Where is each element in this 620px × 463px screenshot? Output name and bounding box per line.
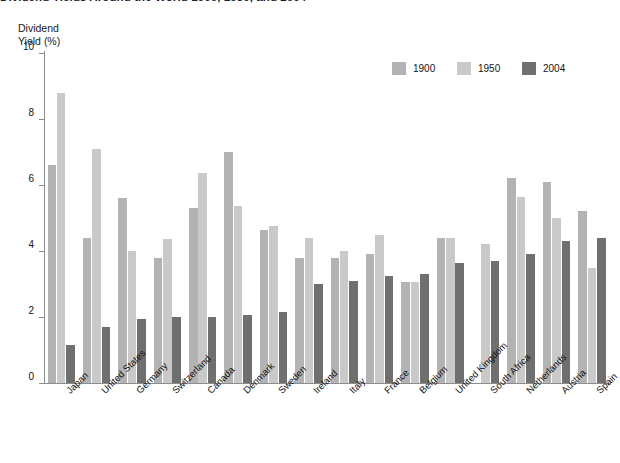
- bar: [491, 261, 500, 383]
- y-axis-tick-label: 4: [8, 239, 34, 250]
- chart-figure: Dividend Yields Around the World 1900, 1…: [0, 0, 620, 463]
- bar-group: [507, 53, 536, 383]
- legend-swatch: [522, 62, 536, 75]
- legend-label: 2004: [543, 63, 565, 74]
- bar: [578, 211, 587, 383]
- bar: [385, 276, 394, 383]
- y-axis-tick-label: 8: [8, 107, 34, 118]
- bar: [243, 315, 252, 383]
- bar: [455, 263, 464, 383]
- bar-group: [366, 53, 395, 383]
- bar: [349, 281, 358, 383]
- bar: [543, 182, 552, 383]
- bar: [507, 178, 516, 383]
- bar: [279, 312, 288, 383]
- legend-swatch: [392, 62, 406, 75]
- y-axis-tick-label: 2: [8, 305, 34, 316]
- y-axis-tick-label: 10: [8, 41, 34, 52]
- x-axis-labels: JapanUnited StatesGermanySwitzerlandCana…: [44, 384, 610, 463]
- bar-group: [331, 53, 360, 383]
- bar: [597, 238, 606, 383]
- y-axis-tick-label: 0: [8, 371, 34, 382]
- bar: [340, 251, 349, 383]
- bar-group: [295, 53, 324, 383]
- legend-label: 1950: [478, 63, 500, 74]
- bar-group: [578, 53, 607, 383]
- bar: [118, 198, 127, 383]
- y-axis-title-line1: Dividend: [18, 22, 60, 35]
- bar: [331, 258, 340, 383]
- bar: [446, 238, 455, 383]
- bar: [198, 173, 207, 383]
- bar: [92, 149, 101, 383]
- legend-item[interactable]: 2004: [522, 61, 565, 76]
- bar: [366, 254, 375, 383]
- bar: [437, 238, 446, 383]
- bar: [224, 152, 233, 383]
- bar: [48, 165, 57, 383]
- bar: [269, 226, 278, 383]
- bar-group: [83, 53, 112, 383]
- plot-area: [44, 53, 610, 383]
- legend-label: 1900: [413, 63, 435, 74]
- bar-group: [260, 53, 289, 383]
- bar: [234, 206, 243, 383]
- bar-group: [437, 53, 466, 383]
- bar: [172, 317, 181, 383]
- bar: [163, 239, 172, 383]
- bar: [83, 238, 92, 383]
- bar-group: [189, 53, 218, 383]
- legend-item[interactable]: 1950: [457, 61, 500, 76]
- legend-item[interactable]: 1900: [392, 61, 435, 76]
- bar: [420, 274, 429, 383]
- legend-swatch: [457, 62, 471, 75]
- figure-title: Dividend Yields Around the World 1900, 1…: [0, 0, 620, 5]
- bar: [208, 317, 217, 383]
- bar: [57, 93, 66, 383]
- bar-group: [401, 53, 430, 383]
- bar: [305, 238, 314, 383]
- bar: [411, 282, 420, 383]
- bar-group: [118, 53, 147, 383]
- bar: [189, 208, 198, 383]
- bar-group: [48, 53, 77, 383]
- bar: [588, 268, 597, 384]
- bar: [102, 327, 111, 383]
- bar: [314, 284, 323, 383]
- y-axis-tick-label: 6: [8, 173, 34, 184]
- bar-group: [224, 53, 253, 383]
- bar-group: [472, 53, 501, 383]
- bar: [375, 235, 384, 384]
- bar-group: [543, 53, 572, 383]
- bar-group: [154, 53, 183, 383]
